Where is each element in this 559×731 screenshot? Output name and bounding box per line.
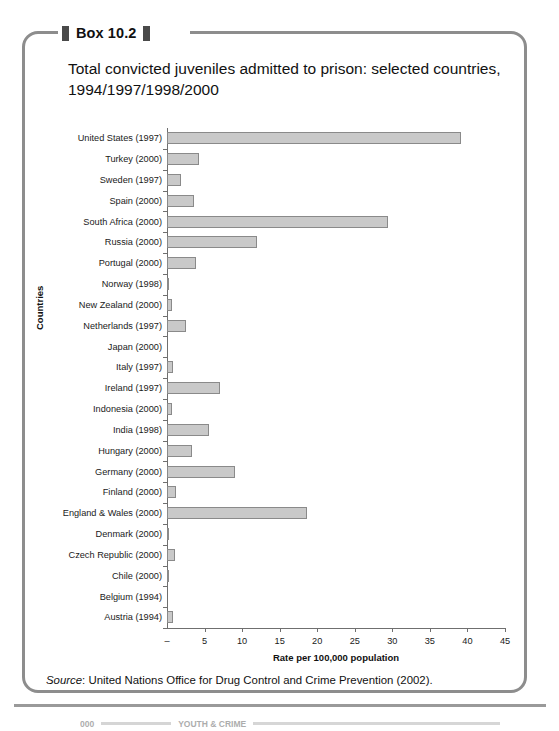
y-axis-label: Germany (2000) — [60, 467, 162, 477]
y-axis-label: Belgium (1994) — [60, 592, 162, 602]
bar — [167, 466, 235, 478]
y-axis-tick — [163, 545, 167, 546]
y-axis-tick — [163, 607, 167, 608]
bar — [167, 403, 172, 415]
footer-title: YOUTH & CRIME — [178, 719, 246, 729]
y-axis-tick — [163, 566, 167, 567]
bar — [167, 153, 199, 165]
bar-chart: United States (1997)Turkey (2000)Sweden … — [0, 0, 559, 731]
bar — [167, 195, 194, 207]
y-axis-tick — [163, 482, 167, 483]
y-axis-tick — [163, 357, 167, 358]
source-text: : United Nations Office for Drug Control… — [82, 674, 433, 686]
x-axis-tick — [392, 628, 393, 632]
x-axis-tick — [317, 628, 318, 632]
x-axis-line — [167, 628, 505, 629]
bar — [167, 361, 173, 373]
y-axis-label: Czech Republic (2000) — [60, 550, 162, 560]
x-axis-tick-label: 45 — [500, 636, 510, 646]
bar — [167, 507, 307, 519]
y-axis-label: Netherlands (1997) — [60, 321, 162, 331]
x-axis-tick-label: 25 — [350, 636, 360, 646]
y-axis-tick — [163, 316, 167, 317]
y-axis-label: Norway (1998) — [60, 279, 162, 289]
y-axis-tick — [163, 461, 167, 462]
footer-rule-right — [253, 722, 500, 725]
y-axis-tick — [163, 274, 167, 275]
y-axis-label: Russia (2000) — [60, 237, 162, 247]
y-axis-tick — [163, 149, 167, 150]
x-axis-tick — [280, 628, 281, 632]
y-axis-tick — [163, 232, 167, 233]
x-axis-tick — [467, 628, 468, 632]
y-axis-label: New Zealand (2000) — [60, 300, 162, 310]
box-label-left-marker — [62, 26, 69, 41]
box-label-right-marker — [143, 26, 150, 41]
y-axis-label: India (1998) — [60, 425, 162, 435]
footer-page-number: 000 — [80, 719, 94, 729]
source-label: Source — [46, 674, 82, 686]
y-axis-tick — [163, 441, 167, 442]
y-axis-tick — [163, 336, 167, 337]
y-axis-label: Japan (2000) — [60, 342, 162, 352]
y-axis-tick — [163, 586, 167, 587]
bar — [167, 216, 388, 228]
bar — [167, 424, 209, 436]
y-axis-tick — [163, 211, 167, 212]
x-axis-tick-label: 40 — [462, 636, 472, 646]
y-axis-label: South Africa (2000) — [60, 217, 162, 227]
bar — [167, 611, 173, 623]
bar — [167, 278, 169, 290]
y-axis-tick — [163, 378, 167, 379]
y-axis-label: Hungary (2000) — [60, 446, 162, 456]
box-label-text: Box 10.2 — [76, 25, 136, 41]
bar — [167, 257, 196, 269]
x-axis-title: Rate per 100,000 population — [167, 652, 505, 663]
x-axis-tick-label: – — [164, 636, 169, 646]
bar — [167, 445, 192, 457]
y-axis-tick — [163, 295, 167, 296]
x-axis-tick-label: 10 — [237, 636, 247, 646]
y-axis-label: Turkey (2000) — [60, 154, 162, 164]
y-axis-label: Portugal (2000) — [60, 258, 162, 268]
y-axis-label: Finland (2000) — [60, 487, 162, 497]
page-canvas: Box 10.2 Total convicted juveniles admit… — [0, 0, 559, 731]
y-axis-label: United States (1997) — [60, 133, 162, 143]
x-axis-tick-label: 20 — [312, 636, 322, 646]
y-axis-label: England & Wales (2000) — [60, 508, 162, 518]
y-axis-tick — [163, 399, 167, 400]
x-axis-tick — [355, 628, 356, 632]
y-axis-tick — [163, 628, 167, 629]
x-axis-tick — [242, 628, 243, 632]
source-note: Source: United Nations Office for Drug C… — [46, 674, 433, 686]
y-axis-label: Austria (1994) — [60, 612, 162, 622]
y-axis-title: Countries — [34, 286, 45, 330]
bar — [167, 549, 175, 561]
x-axis-tick-label: 5 — [202, 636, 207, 646]
y-axis-tick — [163, 524, 167, 525]
y-axis-tick — [163, 170, 167, 171]
y-axis-label: Spain (2000) — [60, 196, 162, 206]
y-axis-tick — [163, 253, 167, 254]
bar — [167, 236, 257, 248]
plot-area — [167, 128, 505, 628]
bar — [167, 299, 172, 311]
page-footer: 000 YOUTH & CRIME — [80, 718, 500, 729]
bar — [167, 528, 169, 540]
y-axis-tick — [163, 191, 167, 192]
y-axis-tick — [163, 503, 167, 504]
y-axis-tick — [163, 420, 167, 421]
box-label: Box 10.2 — [62, 24, 150, 42]
x-axis-tick-label: 35 — [425, 636, 435, 646]
x-axis-tick — [430, 628, 431, 632]
footer-rule-left — [101, 722, 171, 725]
y-axis-category-labels: United States (1997)Turkey (2000)Sweden … — [60, 128, 162, 628]
footer-divider — [14, 704, 546, 707]
x-axis-tick-labels: –51015202530354045 — [167, 636, 517, 650]
x-axis-tick-label: 30 — [387, 636, 397, 646]
y-axis-label: Italy (1997) — [60, 362, 162, 372]
y-axis-label: Ireland (1997) — [60, 383, 162, 393]
bar — [167, 132, 461, 144]
bar — [167, 382, 220, 394]
y-axis-label: Indonesia (2000) — [60, 404, 162, 414]
